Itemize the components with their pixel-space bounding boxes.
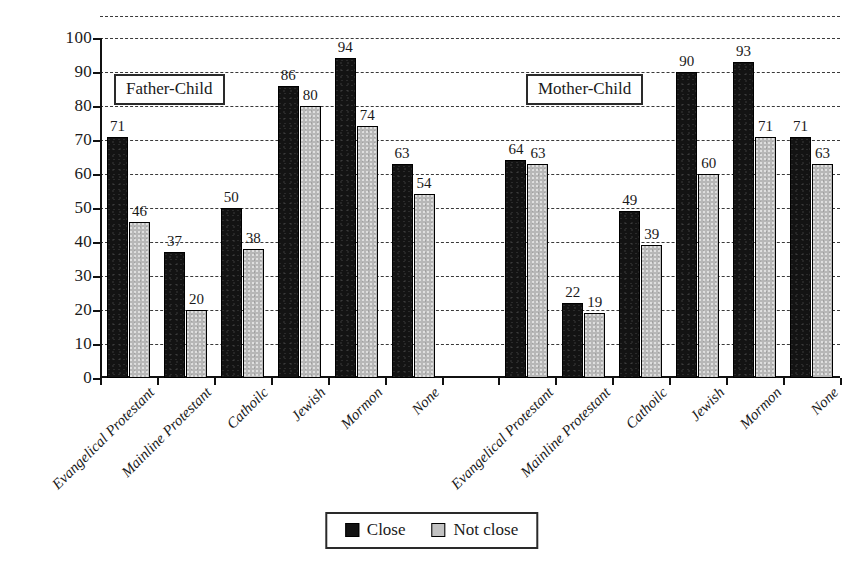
x-tick-mark: [442, 378, 444, 385]
y-tick-mark: [93, 378, 100, 380]
x-tick-mark: [555, 378, 557, 385]
legend-item-not-close: Not close: [432, 520, 519, 540]
x-tick-mark: [100, 378, 102, 385]
y-tick-mark: [93, 174, 100, 176]
x-tick-mark: [328, 378, 330, 385]
x-tick-mark: [385, 378, 387, 385]
x-tick-mark: [157, 378, 159, 385]
x-tick-mark: [214, 378, 216, 385]
legend-label-not-close: Not close: [454, 520, 519, 540]
y-tick-label: 30: [74, 266, 92, 286]
x-tick-mark: [783, 378, 785, 385]
y-tick-mark: [93, 140, 100, 142]
bar-not-close: [812, 164, 833, 378]
bar-close: [790, 137, 811, 378]
y-tick-mark: [93, 72, 100, 74]
y-tick-label: 20: [74, 300, 92, 320]
bar-value-label: 71: [793, 119, 808, 134]
x-tick-mark: [498, 378, 500, 385]
y-tick-label: 40: [74, 232, 92, 252]
x-category-label: Jewish: [687, 384, 728, 425]
legend-swatch-close-icon: [345, 523, 359, 537]
x-category-label: Mormon: [736, 384, 785, 433]
bar-value-label: 63: [815, 146, 830, 161]
x-tick-mark: [612, 378, 614, 385]
y-tick-mark: [93, 38, 100, 40]
y-tick-mark: [93, 106, 100, 108]
legend-item-close: Close: [345, 520, 406, 540]
annotation-mother-child: Mother-Child: [526, 74, 643, 105]
y-tick-mark: [93, 276, 100, 278]
y-tick-label: 60: [74, 164, 92, 184]
chart-figure: Percent 1009080706050403020100 714637205…: [0, 0, 863, 576]
x-tick-mark: [669, 378, 671, 385]
x-category-label: None: [807, 384, 841, 418]
y-tick-mark: [93, 344, 100, 346]
x-category-label: Jewish: [288, 384, 329, 425]
y-tick-label: 90: [74, 62, 92, 82]
y-tick-label: 100: [66, 28, 92, 48]
x-category-label: Cathoilc: [622, 384, 671, 433]
x-category-label: Evangelical Protestant: [49, 384, 158, 493]
y-tick-label: 50: [74, 198, 92, 218]
x-tick-mark: [271, 378, 273, 385]
chart-legend: Close Not close: [325, 512, 538, 549]
x-category-label: Mormon: [338, 384, 387, 433]
x-tick-mark: [726, 378, 728, 385]
annotation-father-child: Father-Child: [114, 74, 225, 105]
y-tick-label: 70: [74, 130, 92, 150]
y-axis-tick-labels: 1009080706050403020100: [48, 38, 92, 378]
x-category-label: None: [409, 384, 443, 418]
y-tick-label: 10: [74, 334, 92, 354]
legend-swatch-not-close-icon: [432, 523, 446, 537]
y-tick-mark: [93, 208, 100, 210]
y-tick-label: 0: [83, 368, 92, 388]
y-tick-mark: [93, 242, 100, 244]
x-category-label: Cathoilc: [224, 384, 273, 433]
x-tick-mark: [840, 378, 842, 385]
gridline-top: [100, 16, 840, 17]
y-tick-mark: [93, 310, 100, 312]
x-category-label: Evangelical Protestant: [448, 384, 557, 493]
legend-label-close: Close: [367, 520, 406, 540]
y-tick-label: 80: [74, 96, 92, 116]
